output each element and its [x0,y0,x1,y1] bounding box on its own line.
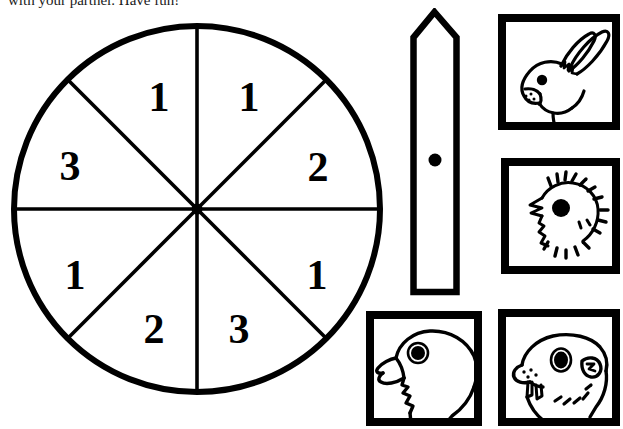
instruction-text: with your partner. Have fun! [8,0,338,11]
spinner-pointer[interactable] [409,8,461,298]
pointer-outline [414,12,457,292]
animal-card-dove[interactable] [366,311,482,426]
pointer-pivot-dot [429,154,442,167]
spinner-sector-label-0: 1 [239,74,260,120]
spinner-sector-label-3: 3 [229,306,250,352]
spinner-sector-label-7: 1 [149,74,170,120]
animal-card-hamster[interactable] [498,309,620,426]
spinner-sector-label-6: 3 [60,143,81,189]
animal-card-chick[interactable] [501,158,620,274]
worksheet-page: with your partner. Have fun! 1 2 1 3 2 1… [0,0,623,429]
spinner-sector-label-4: 2 [144,306,165,352]
animal-card-rabbit[interactable] [498,14,620,130]
spinner-sector-label-1: 2 [308,144,329,190]
spinner-sector-label-2: 1 [307,252,328,298]
spinner-sector-label-5: 1 [65,252,86,298]
spinner-wheel[interactable]: 1 2 1 3 2 1 3 1 [6,18,388,400]
spinner-hub-dot [192,204,203,215]
